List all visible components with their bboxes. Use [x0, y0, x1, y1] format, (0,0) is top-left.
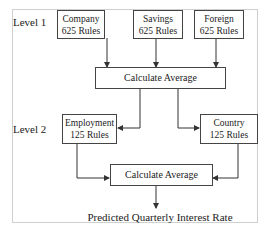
- output-label: Predicted Quarterly Interest Rate: [60, 211, 260, 223]
- company-rules: 625 Rules: [62, 25, 100, 37]
- calculate-average-level2-label: Calculate Average: [125, 169, 198, 181]
- hierarchical-fuzzy-system-diagram: Level 1 Level 2 Company 625 Rules Saving…: [0, 0, 267, 228]
- level-2-label: Level 2: [13, 123, 46, 135]
- foreign-label: Foreign: [204, 13, 234, 25]
- country-box: Country 125 Rules: [200, 114, 258, 144]
- employment-label: Employment: [65, 117, 114, 129]
- country-rules: 125 Rules: [210, 129, 248, 141]
- calculate-average-level1-label: Calculate Average: [124, 72, 197, 84]
- calculate-average-level1-box: Calculate Average: [95, 67, 226, 89]
- savings-box: Savings 625 Rules: [133, 10, 183, 39]
- level-1-label: Level 1: [13, 16, 46, 28]
- foreign-box: Foreign 625 Rules: [194, 10, 244, 39]
- savings-rules: 625 Rules: [139, 25, 177, 37]
- employment-box: Employment 125 Rules: [62, 114, 117, 144]
- country-label: Country: [213, 117, 244, 129]
- savings-label: Savings: [143, 13, 173, 25]
- company-label: Company: [63, 13, 100, 25]
- company-box: Company 625 Rules: [57, 10, 105, 39]
- calculate-average-level2-box: Calculate Average: [110, 164, 213, 186]
- employment-rules: 125 Rules: [70, 129, 108, 141]
- foreign-rules: 625 Rules: [200, 25, 238, 37]
